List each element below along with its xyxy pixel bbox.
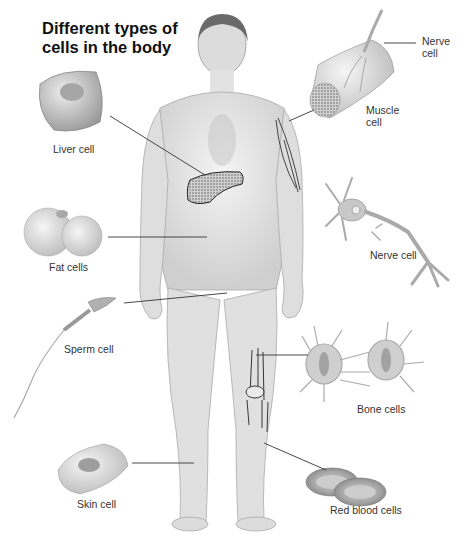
label-nerve-cell: Nerve cell xyxy=(370,249,417,261)
muscle-cell-illustration xyxy=(310,10,394,118)
liver-cell-illustration xyxy=(39,71,102,131)
bone-cells-illustration xyxy=(300,322,424,402)
label-bone-cells: Bone cells xyxy=(357,403,405,415)
label-muscle-cell: Muscle cell xyxy=(366,104,399,128)
label-muscle-line-2: cell xyxy=(366,116,399,128)
label-nerve-cell-top: Nerve cell xyxy=(422,35,450,59)
nerve-cell-illustration xyxy=(326,178,448,286)
label-nerve-top-line-2: cell xyxy=(422,47,450,59)
label-red-blood-cells: Red blood cells xyxy=(330,504,402,516)
label-skin-cell: Skin cell xyxy=(77,498,116,510)
title-line-1: Different types of xyxy=(42,19,178,38)
human-figure xyxy=(140,14,303,531)
title-line-2: cells in the body xyxy=(42,38,178,57)
skin-cell-illustration xyxy=(58,444,128,494)
sperm-cell-illustration xyxy=(14,298,116,419)
body-diagram xyxy=(0,0,464,547)
label-liver-cell: Liver cell xyxy=(53,143,94,155)
leader-line-red-blood xyxy=(264,443,326,470)
red-blood-cells-illustration xyxy=(306,468,386,506)
label-nerve-top-line-1: Nerve xyxy=(422,35,450,47)
leader-line-muscle xyxy=(289,110,314,121)
fat-cells-illustration xyxy=(24,208,102,256)
label-muscle-line-1: Muscle xyxy=(366,104,399,116)
label-fat-cells: Fat cells xyxy=(49,261,88,273)
page-title: Different types of cells in the body xyxy=(42,19,178,57)
label-sperm-cell: Sperm cell xyxy=(64,343,114,355)
